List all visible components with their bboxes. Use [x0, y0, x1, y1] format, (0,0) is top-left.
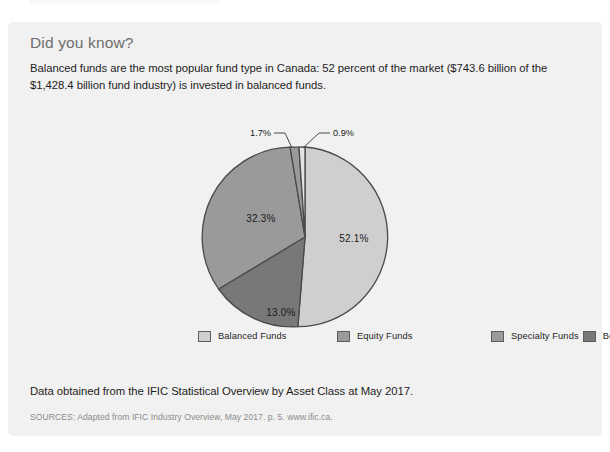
card-body-text: Balanced funds are the most popular fund…	[30, 60, 582, 94]
legend-item-specialty-funds[interactable]: Specialty Funds	[491, 328, 579, 344]
pie-label-bond-funds: 13.0%	[266, 307, 295, 318]
legend-swatch-icon	[337, 331, 350, 342]
legend-swatch-icon	[491, 331, 504, 342]
legend-item-label: Balanced Funds	[218, 331, 287, 341]
pie-label-equity-funds: 32.3%	[246, 213, 275, 224]
legend-item-label: Specialty Funds	[511, 331, 579, 341]
legend-item-label: Bond Funds	[603, 331, 610, 341]
legend-item-equity-funds[interactable]: Equity Funds	[337, 328, 487, 344]
page-top-cutoff-strip	[30, 0, 220, 5]
did-you-know-card: Did you know? Balanced funds are the mos…	[8, 22, 602, 436]
callout-line-short-term-funds	[303, 133, 330, 148]
pie-label-specialty-funds: 1.7%	[250, 128, 271, 138]
pie-chart: 1.7% 0.9% 52.1% 32.3% 13.0%	[8, 94, 602, 334]
chart-legend: Balanced Funds Equity Funds Specialty Fu…	[198, 328, 498, 344]
sources-line: SOURCES: Adapted from IFIC Industry Over…	[30, 411, 582, 424]
pie-label-balanced-funds: 52.1%	[339, 233, 368, 244]
legend-item-bond-funds[interactable]: Bond Funds	[583, 328, 610, 344]
legend-swatch-icon	[583, 331, 596, 342]
page-title: Did you know?	[30, 34, 134, 52]
callout-line-specialty-funds	[274, 133, 292, 148]
legend-swatch-icon	[198, 331, 211, 342]
pie-chart-svg: 1.7% 0.9% 52.1% 32.3% 13.0%	[8, 94, 602, 334]
chart-caption: Data obtained from the IFIC Statistical …	[30, 384, 582, 399]
legend-item-balanced-funds[interactable]: Balanced Funds	[198, 328, 333, 344]
pie-label-short-term-funds: 0.9%	[333, 128, 354, 138]
legend-item-label: Equity Funds	[357, 331, 412, 341]
